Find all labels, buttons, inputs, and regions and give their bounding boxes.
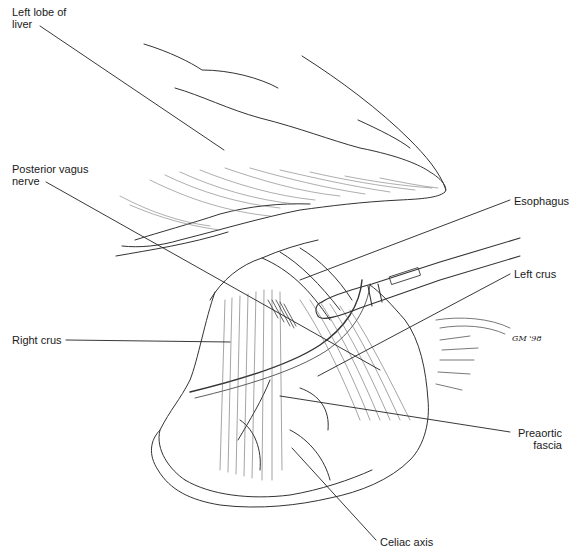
leader-left-lobe-of-liver [40,26,224,150]
label-left-lobe-of-liver: Left lobe of liver [12,6,66,30]
liver-lobe-drawing [116,44,446,256]
grasper-instrument [316,238,520,318]
leader-lines [40,26,510,540]
surgical-drawing [0,0,577,558]
liver-hatching [120,168,438,230]
artist-signature: GM '98 [512,334,542,343]
label-esophagus: Esophagus [514,195,569,207]
left-side-tissue [436,318,510,390]
anatomical-illustration: Left lobe of liver Posterior vagus nerve… [0,0,577,558]
label-left-crus: Left crus [514,268,556,280]
crus-striations [220,290,410,480]
leader-celiac-axis [292,448,376,540]
label-right-crus: Right crus [12,334,62,346]
leader-right-crus [66,340,230,342]
hiatus-drawing [151,240,428,507]
label-celiac-axis: Celiac axis [380,536,433,548]
label-preaortic-fascia: Preaortic fascia [500,427,562,451]
leader-preaortic-fascia [280,396,510,432]
label-posterior-vagus-nerve: Posterior vagus nerve [12,163,88,187]
